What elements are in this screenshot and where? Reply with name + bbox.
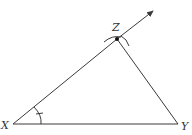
label-x: X bbox=[0, 119, 10, 132]
label-y: Y bbox=[181, 120, 190, 133]
angle-tick-x bbox=[36, 113, 43, 114]
triangle-construction-diagram: X Y Z bbox=[0, 0, 192, 135]
point-z-dot bbox=[115, 37, 119, 41]
ray-arrow bbox=[117, 11, 153, 39]
angle-arc-x bbox=[34, 107, 41, 124]
label-z: Z bbox=[111, 21, 120, 34]
side-zy bbox=[117, 39, 178, 124]
construction-arc-2 bbox=[121, 36, 129, 46]
side-xz bbox=[13, 39, 117, 124]
